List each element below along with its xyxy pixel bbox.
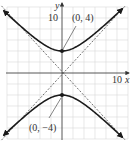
lower-branch <box>4 95 123 137</box>
x-tick-label: 10 <box>112 74 122 85</box>
plot-area: y 10 10 x (0, 4) (0, −4) <box>0 0 132 143</box>
x-axis-label: x <box>124 74 130 85</box>
y-tick-label: 10 <box>48 12 58 23</box>
y-axis-label: y <box>54 0 60 11</box>
leader-line-top <box>63 26 76 49</box>
vertex-label-top: (0, 4) <box>72 12 94 24</box>
vertex-point-bottom <box>60 93 64 97</box>
upper-branch <box>4 9 123 51</box>
vertex-point-top <box>60 49 64 53</box>
vertex-label-bottom: (0, −4) <box>29 122 56 134</box>
hyperbola-figure: y 10 10 x (0, 4) (0, −4) <box>0 0 132 143</box>
